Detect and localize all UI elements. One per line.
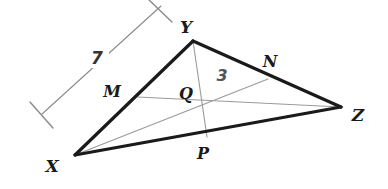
geometry-canvas: 7 3 X Y Z M N P Q	[0, 0, 388, 189]
geometry-diagram: 7 3 X Y Z M N P Q	[0, 0, 388, 189]
measure-label-7: 7	[91, 48, 103, 68]
point-label-Q: Q	[179, 84, 193, 103]
vertex-label-X: X	[44, 156, 59, 176]
point-label-M: M	[102, 82, 122, 101]
vertex-label-Y: Y	[180, 17, 194, 37]
vertex-label-Z: Z	[351, 105, 365, 125]
point-label-N: N	[262, 52, 279, 71]
point-label-P: P	[196, 144, 210, 163]
measure-label-3: 3	[216, 66, 227, 85]
